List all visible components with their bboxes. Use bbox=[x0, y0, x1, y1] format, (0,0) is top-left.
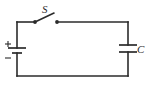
switch-right-contact-node bbox=[55, 20, 59, 24]
circuit-diagram: S C bbox=[0, 0, 150, 90]
circuit-schematic-svg bbox=[0, 0, 150, 90]
capacitor-label: C bbox=[137, 44, 144, 55]
battery-plus-sign bbox=[5, 41, 11, 47]
switch-label: S bbox=[42, 4, 48, 15]
